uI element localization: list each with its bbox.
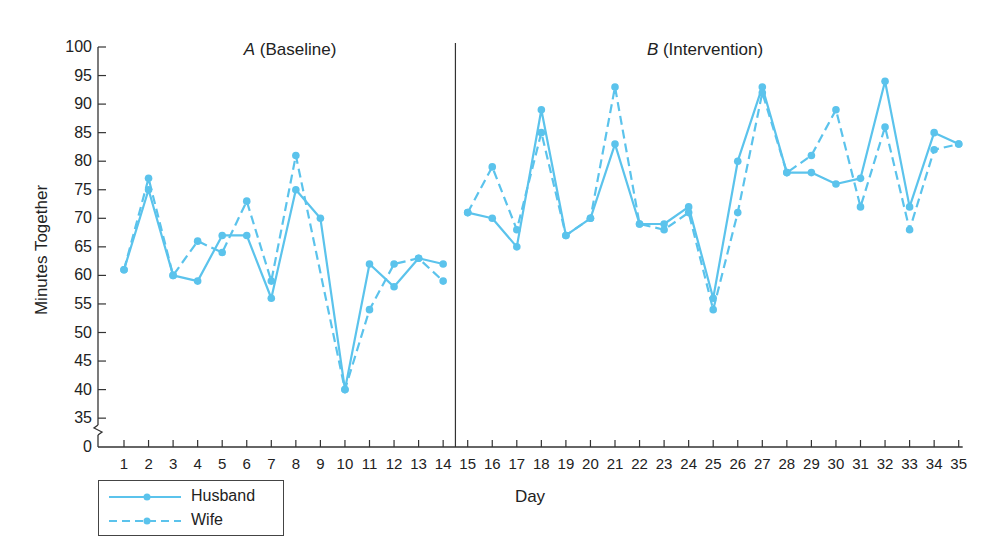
data-point <box>366 306 374 314</box>
data-point <box>734 209 742 217</box>
y-tick-label: 40 <box>74 381 92 398</box>
data-point <box>808 169 816 177</box>
legend-item-husband: Husband <box>99 485 283 509</box>
y-tick-label: 95 <box>74 67 92 84</box>
x-tick-label: 33 <box>901 455 918 472</box>
series-layer <box>120 77 962 393</box>
data-point <box>513 243 521 251</box>
data-point <box>415 254 423 262</box>
x-tick-label: 5 <box>218 455 226 472</box>
data-point <box>881 77 889 85</box>
x-tick-label: 20 <box>582 455 599 472</box>
phase-b-title: B (Intervention) <box>647 40 763 59</box>
data-point <box>366 260 374 268</box>
x-tick-label: 25 <box>705 455 722 472</box>
x-tick-label: 9 <box>316 455 324 472</box>
data-point <box>709 306 717 314</box>
data-point <box>194 277 202 285</box>
y-tick-label: 0 <box>83 438 92 455</box>
y-tick-label: 45 <box>74 352 92 369</box>
data-point <box>439 260 447 268</box>
x-tick-label: 8 <box>292 455 300 472</box>
data-point <box>194 237 202 245</box>
data-point <box>930 129 938 137</box>
data-point <box>169 272 177 280</box>
x-tick-label: 11 <box>362 455 378 472</box>
data-point <box>808 152 816 160</box>
data-point <box>243 197 251 205</box>
data-point <box>488 215 496 223</box>
y-tick-label: 70 <box>74 209 92 226</box>
line-chart: 0354045505560657075808590951001234567891… <box>0 0 999 560</box>
y-tick-label: 100 <box>65 38 92 55</box>
x-tick-label: 4 <box>193 455 201 472</box>
data-point <box>881 123 889 131</box>
data-point <box>292 152 300 160</box>
data-point <box>685 209 693 217</box>
data-point <box>538 129 546 137</box>
y-tick-label: 65 <box>74 238 92 255</box>
data-point <box>513 226 521 234</box>
x-tick-label: 3 <box>169 455 177 472</box>
x-tick-label: 7 <box>267 455 275 472</box>
data-point <box>439 277 447 285</box>
x-tick-label: 23 <box>656 455 673 472</box>
data-point <box>292 186 300 194</box>
data-point <box>857 203 865 211</box>
data-point <box>218 232 226 240</box>
x-tick-label: 18 <box>533 455 550 472</box>
x-tick-label: 15 <box>459 455 476 472</box>
x-tick-label: 34 <box>926 455 943 472</box>
data-point <box>611 140 619 148</box>
data-point <box>120 266 128 274</box>
series-husband <box>120 77 962 393</box>
phase-a-letter: A <box>243 40 255 59</box>
x-tick-label: 16 <box>484 455 501 472</box>
x-tick-label: 32 <box>877 455 894 472</box>
x-tick-label: 21 <box>607 455 624 472</box>
data-point <box>734 157 742 165</box>
x-tick-label: 6 <box>243 455 251 472</box>
data-point <box>390 260 398 268</box>
data-point <box>955 140 963 148</box>
y-tick-label: 50 <box>74 324 92 341</box>
x-tick-label: 31 <box>852 455 869 472</box>
x-tick-label: 30 <box>828 455 845 472</box>
data-point <box>930 146 938 154</box>
x-axis-label: Day <box>515 487 546 506</box>
legend-label-husband: Husband <box>191 487 255 505</box>
data-point <box>636 220 644 228</box>
x-tick-label: 19 <box>558 455 575 472</box>
data-point <box>243 232 251 240</box>
data-point <box>390 283 398 291</box>
dashed-line-marker-icon <box>109 515 181 527</box>
legend-label-wife: Wife <box>191 511 223 529</box>
data-point <box>562 232 570 240</box>
data-point <box>317 215 325 223</box>
chart-canvas: 0354045505560657075808590951001234567891… <box>0 0 999 560</box>
y-tick-label: 75 <box>74 181 92 198</box>
data-point <box>660 226 668 234</box>
axes <box>94 43 963 447</box>
data-point <box>906 226 914 234</box>
x-tick-label: 10 <box>337 455 354 472</box>
data-point <box>145 175 153 183</box>
solid-line-marker-icon <box>109 491 181 503</box>
x-tick-label: 14 <box>435 455 452 472</box>
data-point <box>488 163 496 171</box>
x-tick-label: 35 <box>950 455 967 472</box>
x-tick-label: 28 <box>779 455 796 472</box>
x-tick-label: 22 <box>631 455 648 472</box>
y-tick-label: 90 <box>74 95 92 112</box>
phase-a-title: A (Baseline) <box>243 40 337 59</box>
x-tick-label: 24 <box>680 455 697 472</box>
data-point <box>268 294 276 302</box>
y-tick-label: 55 <box>74 295 92 312</box>
data-point <box>341 386 349 394</box>
data-point <box>857 175 865 183</box>
x-tick-label: 17 <box>508 455 525 472</box>
data-point <box>906 203 914 211</box>
x-tick-label: 26 <box>729 455 746 472</box>
data-point <box>218 249 226 257</box>
tick-labels: 0354045505560657075808590951001234567891… <box>65 38 967 472</box>
